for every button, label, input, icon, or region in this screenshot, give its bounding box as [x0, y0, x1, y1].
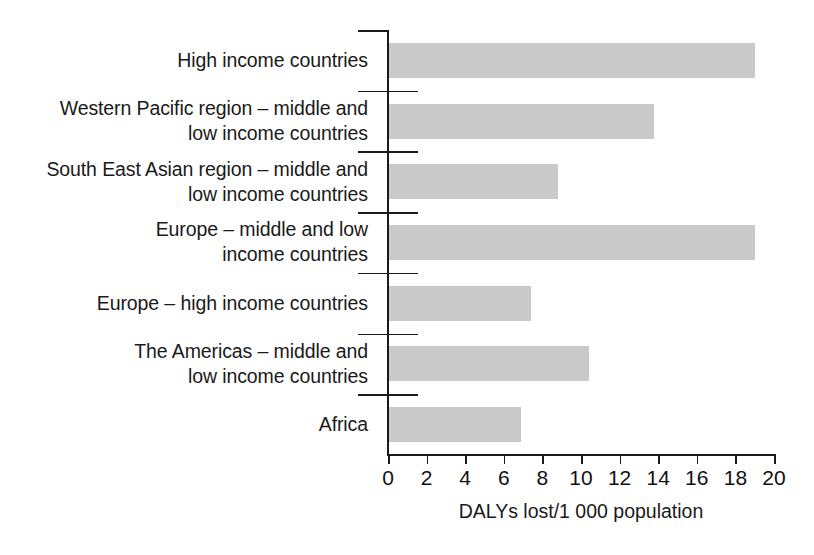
- category-label: Europe – middle and low income countries: [0, 217, 368, 267]
- x-axis-tick: [658, 454, 660, 464]
- x-axis-tick-label: 8: [522, 466, 562, 490]
- x-axis-tick-label: 10: [561, 466, 601, 490]
- x-axis-tick: [735, 454, 737, 464]
- category-separator-tick: [358, 91, 418, 93]
- x-axis-tick-label: 16: [677, 466, 717, 490]
- x-axis-tick: [465, 454, 467, 464]
- bar: [388, 164, 558, 199]
- x-axis-tick-label: 0: [368, 466, 408, 490]
- x-axis-tick: [697, 454, 699, 464]
- bar: [388, 43, 755, 78]
- x-axis-tick: [581, 454, 583, 464]
- bar: [388, 225, 755, 260]
- y-axis-line: [387, 30, 389, 455]
- x-axis-tick: [504, 454, 506, 464]
- bar: [388, 104, 654, 139]
- bar: [388, 407, 521, 442]
- category-separator-tick: [358, 394, 418, 396]
- y-axis-top-cap-tick: [358, 30, 388, 32]
- x-axis-tick: [427, 454, 429, 464]
- x-axis-tick-label: 12: [600, 466, 640, 490]
- category-label: The Americas – middle and low income cou…: [0, 339, 368, 389]
- category-label-column: High income countriesWestern Pacific reg…: [0, 0, 378, 455]
- x-axis-tick: [388, 454, 390, 464]
- category-separator-tick: [358, 273, 418, 275]
- category-separator-tick: [358, 151, 418, 153]
- x-axis-tick: [620, 454, 622, 464]
- bar: [388, 286, 531, 321]
- category-label: High income countries: [0, 48, 368, 73]
- plot-area: [388, 30, 778, 455]
- category-label: Europe – high income countries: [0, 291, 368, 316]
- category-label: Africa: [0, 412, 368, 437]
- x-axis-tick: [774, 454, 776, 464]
- x-axis-tick-label: 18: [715, 466, 755, 490]
- category-separator-tick: [358, 334, 418, 336]
- x-axis-tick-label: 4: [445, 466, 485, 490]
- x-axis-tick-label: 6: [484, 466, 524, 490]
- bar: [388, 346, 589, 381]
- category-separator-tick: [358, 212, 418, 214]
- x-axis-tick: [542, 454, 544, 464]
- x-axis-title: DALYs lost/1 000 population: [388, 500, 774, 523]
- x-axis-tick-label: 14: [638, 466, 678, 490]
- x-axis-tick-label: 20: [754, 466, 794, 490]
- x-axis-tick-label: 2: [407, 466, 447, 490]
- category-label: South East Asian region – middle and low…: [0, 157, 368, 207]
- bar-chart: High income countriesWestern Pacific reg…: [0, 0, 814, 555]
- category-label: Western Pacific region – middle and low …: [0, 96, 368, 146]
